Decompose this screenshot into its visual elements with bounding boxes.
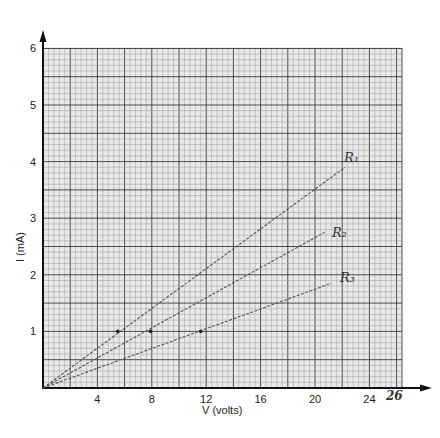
y-tick-label: 1 [30,325,36,337]
x-tick-label: 8 [149,393,155,405]
x-tick-label: 24 [363,393,375,405]
y-tick-label: 6 [30,42,36,54]
y-axis-label: I (mA) [14,232,26,262]
x-tick-label: 20 [309,393,321,405]
y-tick-label: 5 [30,99,36,111]
y-axis-arrow-icon [40,30,47,42]
x-tick-26-handwritten: 26 [385,389,403,403]
iv-chart: 4812162024123456 V (volts) I (mA) 26 R₁ … [0,0,440,438]
y-tick-label: 3 [30,212,36,224]
y-tick-label: 2 [30,269,36,281]
label-r1: R₁ [343,150,359,165]
data-point-r3 [199,330,203,334]
label-r2: R₂ [331,225,347,240]
label-r3: R₃ [339,270,355,285]
x-axis-label: V (volts) [202,404,242,416]
x-axis-arrow-icon [420,385,432,392]
y-tick-label: 4 [30,156,36,168]
data-point-r1 [116,330,120,334]
graph-paper-grid [43,48,402,388]
x-tick-label: 4 [94,393,100,405]
x-tick-label: 16 [254,393,266,405]
data-point-r2 [149,330,153,334]
